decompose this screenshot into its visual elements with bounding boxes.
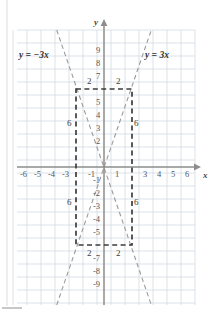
x-tick-label-plus6: 6 xyxy=(185,170,189,179)
dimension-label-bottom-left-2: 2 xyxy=(87,249,92,258)
page-edge-artifact xyxy=(2,0,22,308)
x-tick-label-plus3: 3 xyxy=(143,170,147,179)
equation-label-y-equals-3x: y = 3x xyxy=(145,51,169,61)
dimension-label-lower-left-6: 6 xyxy=(67,198,72,207)
equation-label-y-equals-minus-3x: y = −3x xyxy=(19,51,49,61)
y-tick-label-5: 5 xyxy=(96,98,100,107)
dimension-label-upper-left-6: 6 xyxy=(67,119,72,128)
y-tick-label-2: 2 xyxy=(96,137,100,146)
y-tick-label-8: 8 xyxy=(96,59,100,68)
y-tick-label-4: 4 xyxy=(96,111,100,120)
coordinate-plane-figure: -6 -5 -4 -3 -1 1 3 4 5 6 9 8 7 5 4 3 2 -… xyxy=(0,0,215,320)
x-tick-label-minus4: -4 xyxy=(48,170,55,179)
y-tick-label-minus8: -8 xyxy=(93,267,100,276)
dimension-label-upper-right-6: 6 xyxy=(134,119,139,128)
dimension-label-top-right-2: 2 xyxy=(116,77,121,86)
x-tick-label-plus5: 5 xyxy=(171,170,175,179)
dimension-label-top-left-2: 2 xyxy=(87,77,92,86)
y-tick-label-minus4: -4 xyxy=(93,215,100,224)
dimension-label-bottom-right-2: 2 xyxy=(116,249,121,258)
x-tick-label-minus6: -6 xyxy=(20,170,27,179)
x-tick-label-minus3: -3 xyxy=(62,170,69,179)
y-tick-label-minus9: -9 xyxy=(93,280,100,289)
y-tick-label-minus5: -5 xyxy=(93,228,100,237)
y-tick-label-7: 7 xyxy=(96,72,100,81)
x-tick-label-minus5: -5 xyxy=(34,170,41,179)
y-tick-label-3: 3 xyxy=(96,124,100,133)
y-axis-label: y xyxy=(94,18,98,27)
x-tick-label-plus1: 1 xyxy=(115,170,119,179)
y-tick-label-minus3: -3 xyxy=(93,202,100,211)
y-tick-label-9: 9 xyxy=(96,46,100,55)
dimension-label-lower-right-6: 6 xyxy=(134,198,139,207)
x-axis-label: x xyxy=(203,171,208,180)
y-tick-label-minus2: -2 xyxy=(93,189,100,198)
y-tick-label-minus1: -1 xyxy=(93,176,100,185)
x-tick-label-plus4: 4 xyxy=(157,170,161,179)
graph-canvas xyxy=(0,0,215,320)
y-tick-label-minus7: -7 xyxy=(93,254,100,263)
